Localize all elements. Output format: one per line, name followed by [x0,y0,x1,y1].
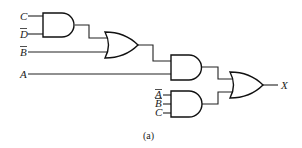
and-gate-3 [171,91,202,117]
or-gate-2 [230,72,263,98]
logic-circuit-diagram: C D B A A B C X (a) [0,0,302,148]
and-gate-1 [43,13,74,37]
input-label-c-2: C [155,106,163,118]
output-label-x: X [280,79,289,91]
and-gate-2 [171,55,201,80]
input-label-a: A [19,68,27,80]
or-gate-1 [105,32,138,58]
figure-caption: (a) [143,130,154,142]
input-label-c: C [20,10,28,22]
input-label-b-bar: B [20,46,27,58]
input-label-d-bar: D [19,28,28,40]
